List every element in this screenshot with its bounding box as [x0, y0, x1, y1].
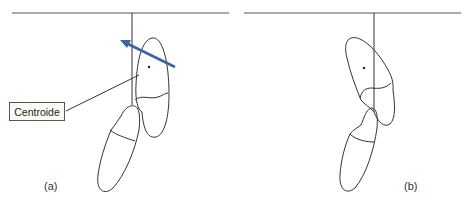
lower-joint-curve-b — [350, 134, 375, 142]
upper-joint-curve-a — [135, 93, 168, 100]
panel-label-b: (b) — [404, 180, 417, 192]
lower-segment-a — [98, 106, 140, 192]
upper-segment-b — [346, 38, 395, 126]
upper-joint-curve-b — [360, 83, 391, 98]
panel-b — [244, 13, 461, 191]
rotation-arrow — [120, 40, 175, 67]
panel-label-a: (a) — [44, 180, 57, 192]
callout-leader-line — [66, 75, 139, 111]
centroid-dot-b — [363, 67, 365, 69]
centroid-dot-a — [148, 66, 150, 68]
centroid-callout-box: Centroide — [9, 102, 65, 121]
lower-segment-b — [340, 108, 377, 191]
diagram-canvas — [0, 0, 464, 201]
lower-joint-curve-a — [110, 130, 135, 141]
upper-segment-a — [136, 38, 169, 137]
centroid-callout-label: Centroide — [14, 106, 60, 118]
